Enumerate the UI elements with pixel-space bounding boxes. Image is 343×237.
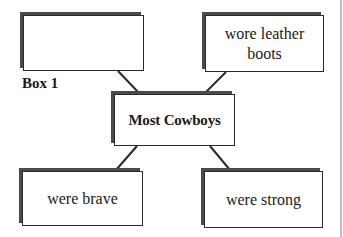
box-bottom-left-text: were brave [41,189,124,209]
box-1-label: Box 1 [22,75,58,92]
box-top-right-text: wore leather boots [206,24,323,64]
connector-top-left [118,71,139,93]
box-bottom-left: were brave [22,171,143,226]
box-top-right: wore leather boots [205,15,324,72]
box-bottom-right: were strong [204,171,323,228]
center-box: Most Cowboys [114,94,235,146]
connector-bottom-left [116,146,137,170]
concept-map-diagram: Box 1 wore leather boots Most Cowboys we… [0,0,343,237]
box-bottom-right-text: were strong [220,190,307,210]
box-1-empty [23,15,144,71]
connector-top-right [205,72,226,93]
center-box-text: Most Cowboys [122,110,226,130]
connector-bottom-right [210,146,230,170]
